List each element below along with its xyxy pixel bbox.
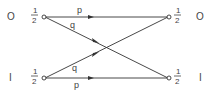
right-prob-0: 1 2 <box>174 6 181 25</box>
left-prob-0: 1 2 <box>31 6 38 25</box>
svg-text:2: 2 <box>175 16 180 25</box>
left-state-1-label: I <box>9 72 12 83</box>
svg-text:1: 1 <box>176 6 181 15</box>
left-prob-1: 1 2 <box>31 67 38 86</box>
svg-text:2: 2 <box>175 77 180 86</box>
left-node-0 <box>42 15 46 19</box>
edge-label-I-O: q <box>72 63 77 73</box>
right-prob-1: 1 2 <box>174 67 181 86</box>
svg-text:2: 2 <box>32 77 37 86</box>
arrow-icon <box>88 76 94 80</box>
svg-text:1: 1 <box>33 67 38 76</box>
left-state-0-label: O <box>7 11 15 22</box>
arrow-icon <box>88 15 94 19</box>
right-node-1 <box>167 76 171 80</box>
arrow-icon <box>92 52 99 57</box>
arrow-icon <box>92 38 99 43</box>
channel-diagram: O I 1 2 1 2 p q q p 1 2 1 2 O I <box>0 0 215 93</box>
svg-text:2: 2 <box>32 16 37 25</box>
edge-label-O-O: p <box>77 5 82 15</box>
svg-text:1: 1 <box>33 6 38 15</box>
right-node-0 <box>167 15 171 19</box>
svg-text:1: 1 <box>176 67 181 76</box>
right-state-1-label: I <box>199 72 202 83</box>
edge-label-O-I: q <box>70 20 75 30</box>
left-node-1 <box>42 76 46 80</box>
right-state-0-label: O <box>196 11 204 22</box>
edge-label-I-I: p <box>74 80 79 90</box>
